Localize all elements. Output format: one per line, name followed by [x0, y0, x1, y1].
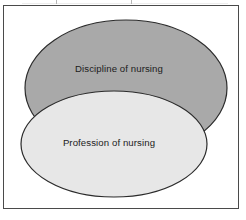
profession-of-nursing-label: Profession of nursing [63, 137, 155, 148]
figure-root: Discipline of nursing Profession of nurs… [0, 0, 246, 220]
discipline-of-nursing-label: Discipline of nursing [75, 63, 163, 74]
venn-diagram: Discipline of nursing Profession of nurs… [0, 0, 246, 220]
